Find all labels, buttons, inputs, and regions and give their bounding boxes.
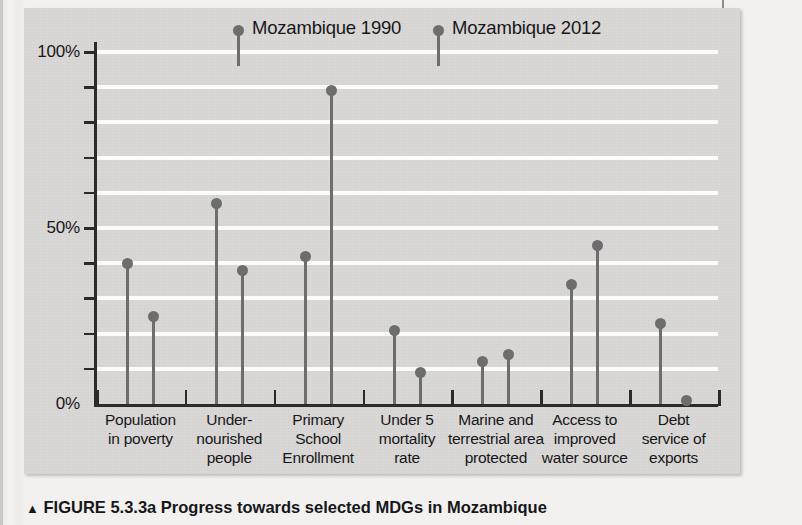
y-axis-label: 50%	[47, 218, 80, 238]
lollipop-stem	[241, 270, 244, 404]
lollipop-stem	[507, 355, 510, 404]
x-axis-tick	[96, 390, 99, 406]
y-axis-tick	[84, 297, 94, 300]
y-axis-tick	[84, 121, 94, 124]
lollipop-stem	[596, 246, 599, 404]
lollipop-stem	[152, 316, 155, 404]
y-axis-tick	[84, 368, 94, 371]
data-point	[326, 85, 337, 96]
data-point	[566, 279, 577, 290]
legend-marker-dot	[233, 25, 244, 36]
category-label-line: Debt	[615, 410, 732, 429]
y-axis-line	[94, 42, 97, 406]
y-axis-tick	[84, 227, 94, 230]
plot-area	[96, 52, 718, 404]
lollipop-stem	[215, 203, 218, 404]
data-point	[237, 265, 248, 276]
lollipop-stem	[659, 323, 662, 404]
data-point	[122, 258, 133, 269]
category-label-line: service of	[615, 429, 732, 448]
y-axis-tick	[84, 86, 94, 89]
legend-label: Mozambique 2012	[452, 17, 601, 39]
y-axis-tick	[84, 333, 94, 336]
lollipop-stem	[570, 284, 573, 404]
gridline	[96, 261, 718, 265]
x-axis-tick	[718, 390, 721, 406]
y-axis-tick	[84, 262, 94, 265]
y-axis-tick	[84, 51, 94, 54]
x-axis-tick	[540, 390, 543, 406]
caption-label: FIGURE 5.3.3a	[43, 498, 156, 516]
data-point	[681, 395, 692, 406]
figure-caption: ▲ FIGURE 5.3.3a Progress towards selecte…	[26, 498, 786, 517]
x-axis-tick	[629, 390, 632, 406]
lollipop-stem	[393, 330, 396, 404]
data-point	[148, 311, 159, 322]
gridline	[96, 156, 718, 160]
data-point	[415, 367, 426, 378]
chart-panel: 100%50%0% Mozambique 1990Mozambique 2012…	[24, 8, 740, 474]
x-axis-line	[94, 404, 718, 407]
gridline	[96, 50, 718, 54]
category-label-line: exports	[615, 448, 732, 467]
caption-text: Progress towards selected MDGs in Mozamb…	[161, 498, 547, 516]
y-axis-label: 100%	[37, 42, 80, 62]
category-label: Debtservice ofexports	[615, 410, 732, 467]
gridline	[96, 367, 718, 371]
y-axis-tick	[84, 192, 94, 195]
x-axis-tick	[363, 390, 366, 406]
caption-marker-icon: ▲	[26, 501, 39, 516]
lollipop-stem	[330, 91, 333, 404]
gridline	[96, 226, 718, 230]
gridline	[96, 191, 718, 195]
legend-label: Mozambique 1990	[252, 17, 401, 39]
gridline	[96, 332, 718, 336]
gridline	[96, 120, 718, 124]
y-axis-label: 0%	[56, 394, 80, 414]
legend-marker-dot	[433, 25, 444, 36]
lollipop-stem	[481, 362, 484, 404]
data-point	[655, 318, 666, 329]
data-point	[211, 198, 222, 209]
x-axis-tick	[451, 390, 454, 406]
data-point	[300, 251, 311, 262]
gridline	[96, 296, 718, 300]
gridline	[96, 85, 718, 89]
y-axis-labels: 100%50%0%	[24, 8, 80, 428]
lollipop-stem	[126, 263, 129, 404]
data-point	[389, 325, 400, 336]
x-axis-tick	[274, 390, 277, 406]
x-axis-tick	[185, 390, 188, 406]
y-axis-tick	[84, 157, 94, 160]
lollipop-stem	[304, 256, 307, 404]
